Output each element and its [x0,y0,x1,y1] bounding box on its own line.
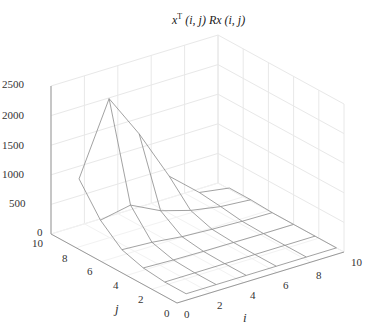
grid-line [218,35,344,104]
mesh-line [131,205,152,242]
mesh-line [122,242,152,249]
mesh-line [199,188,229,192]
mesh-line [109,99,139,134]
mesh-line [242,221,263,233]
mesh-line [212,221,242,229]
mesh-line [152,242,173,260]
mesh-line [182,237,203,252]
mesh-line [221,200,251,207]
grid-line [218,124,344,193]
grid-line [51,124,218,175]
i-tick-8: 8 [316,269,322,281]
j-tick-0: 0 [164,307,170,319]
j-tick-6: 6 [87,265,93,277]
mesh-line [143,260,173,268]
i-tick-4: 4 [250,289,256,301]
grid-line [218,65,344,134]
grid-line [218,94,344,163]
chart-title: xT (i, j) Rx (i, j) [172,12,245,28]
i-tick-0: 0 [184,308,190,320]
z-tick-500: 500 [9,197,26,209]
mesh-line [165,282,186,294]
mesh-line [264,224,294,233]
grid-line [51,153,218,204]
mesh-line [173,260,194,273]
mesh-line [233,234,263,243]
mesh-line [182,229,212,236]
z-tick-2000: 2000 [2,109,24,121]
grid-line [218,153,344,222]
grid-line [51,94,218,145]
mesh-line [79,179,100,220]
j-tick-10: 10 [32,237,43,249]
mesh-line [255,254,276,266]
mesh-line [233,242,254,254]
mesh-line [191,207,221,211]
mesh-line [285,245,306,257]
mesh-line [143,268,164,282]
j-tick-4: 4 [113,279,119,291]
mesh-line [195,273,216,285]
mesh-line [169,176,190,210]
mesh-line [264,234,285,246]
mesh-line [294,224,315,236]
mesh-line [315,236,336,248]
surface-plot [0,0,382,333]
i-axis-label: i [243,310,247,326]
mesh-line [199,192,220,206]
z-tick-2500: 2500 [2,78,24,90]
i-tick-2: 2 [217,299,223,311]
mesh-line [79,99,109,179]
z-tick-1000: 1000 [2,168,24,180]
j-axis-label: j [115,301,119,317]
j-tick-8: 8 [62,252,68,264]
grid-line [51,35,218,86]
mesh-line [251,200,272,213]
mesh-line [212,229,233,242]
mesh-line [203,242,233,251]
i-tick-6: 6 [283,279,289,291]
grid-line [51,65,218,116]
z-tick-1500: 1500 [2,139,24,151]
j-tick-2: 2 [138,293,144,305]
i-tick-10: 10 [351,256,362,268]
mesh-line [272,213,293,225]
